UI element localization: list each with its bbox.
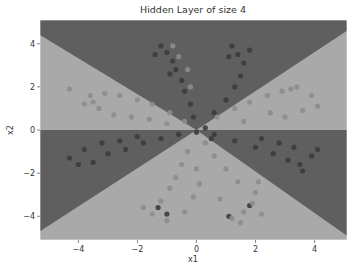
data-point [250, 201, 255, 206]
data-point [247, 48, 252, 53]
data-point [241, 119, 246, 124]
data-point [253, 145, 258, 150]
data-point [300, 168, 305, 173]
data-point [191, 115, 196, 120]
data-point [188, 102, 193, 107]
data-point [164, 121, 169, 126]
data-point [135, 134, 140, 139]
data-point [129, 115, 134, 120]
data-point [150, 212, 155, 217]
data-point [170, 43, 175, 48]
data-point [135, 97, 140, 102]
data-point [223, 97, 228, 102]
data-point [88, 93, 93, 98]
data-point [173, 67, 178, 72]
data-point [241, 209, 246, 214]
y-tick-label: 2 [30, 83, 35, 92]
decision-boundary-regions [40, 20, 347, 240]
data-point [285, 158, 290, 163]
data-point [235, 52, 240, 57]
data-point [294, 84, 299, 89]
data-point [247, 99, 252, 104]
y-tick-label: 4 [30, 40, 35, 49]
data-point [238, 220, 243, 225]
data-point [259, 136, 264, 141]
data-point [91, 99, 96, 104]
data-point [191, 194, 196, 199]
data-point [194, 130, 199, 135]
chart-title: Hidden Layer of size 4 [140, 4, 246, 15]
data-point [315, 104, 320, 109]
figure: Hidden Layer of size 4 −4−2024 −4−2024 x… [0, 0, 356, 271]
data-point [232, 138, 237, 143]
data-point [280, 89, 285, 94]
data-point [229, 43, 234, 48]
data-point [277, 140, 282, 145]
data-point [212, 132, 217, 137]
data-point [182, 209, 187, 214]
data-point [197, 181, 202, 186]
data-point [223, 166, 228, 171]
data-point [218, 196, 223, 201]
data-point [150, 102, 155, 107]
data-point [99, 140, 104, 145]
data-point [96, 106, 101, 111]
data-point [117, 93, 122, 98]
data-point [209, 136, 214, 141]
x-axis-label: x1 [188, 255, 198, 264]
data-point [117, 138, 122, 143]
x-tick-label: 2 [253, 245, 258, 254]
data-point [232, 84, 237, 89]
data-point [76, 162, 81, 167]
data-point [123, 147, 128, 152]
data-point [185, 67, 190, 72]
x-tick-label: −4 [72, 245, 84, 254]
x-tick-label: 0 [194, 245, 199, 254]
data-point [185, 149, 190, 154]
data-point [232, 106, 237, 111]
data-point [170, 58, 175, 63]
data-point [182, 119, 187, 124]
data-point [91, 160, 96, 165]
data-point [141, 205, 146, 210]
data-point [179, 162, 184, 167]
data-point [297, 162, 302, 167]
data-point [179, 78, 184, 83]
data-point [300, 108, 305, 113]
data-point [241, 61, 246, 66]
data-point [141, 140, 146, 145]
data-point [253, 190, 258, 195]
data-point [164, 50, 169, 55]
scatter-chart: Hidden Layer of size 4 −4−2024 −4−2024 x… [0, 0, 356, 271]
data-point [105, 151, 110, 156]
data-point [238, 74, 243, 79]
data-point [212, 153, 217, 158]
data-point [194, 166, 199, 171]
y-axis-label: x2 [6, 125, 15, 135]
data-point [156, 205, 161, 210]
data-point [271, 151, 276, 156]
data-point [158, 43, 163, 48]
data-point [153, 52, 158, 57]
y-tick-label: −2 [23, 169, 35, 178]
x-tick-label: 4 [312, 245, 317, 254]
data-point [158, 199, 163, 204]
data-point [167, 186, 172, 191]
data-point [226, 54, 231, 59]
data-point [268, 110, 273, 115]
data-point [256, 179, 261, 184]
data-point [309, 93, 314, 98]
y-axis-ticks: −4−2024 [23, 40, 40, 222]
y-tick-label: −4 [23, 212, 35, 221]
data-point [67, 86, 72, 91]
data-point [235, 179, 240, 184]
data-point [158, 136, 163, 141]
data-point [182, 89, 187, 94]
data-point [176, 132, 181, 137]
data-point [82, 147, 87, 152]
data-point [111, 112, 116, 117]
data-point [203, 140, 208, 145]
data-point [203, 125, 208, 130]
data-point [167, 110, 172, 115]
y-tick-label: 0 [30, 126, 35, 135]
